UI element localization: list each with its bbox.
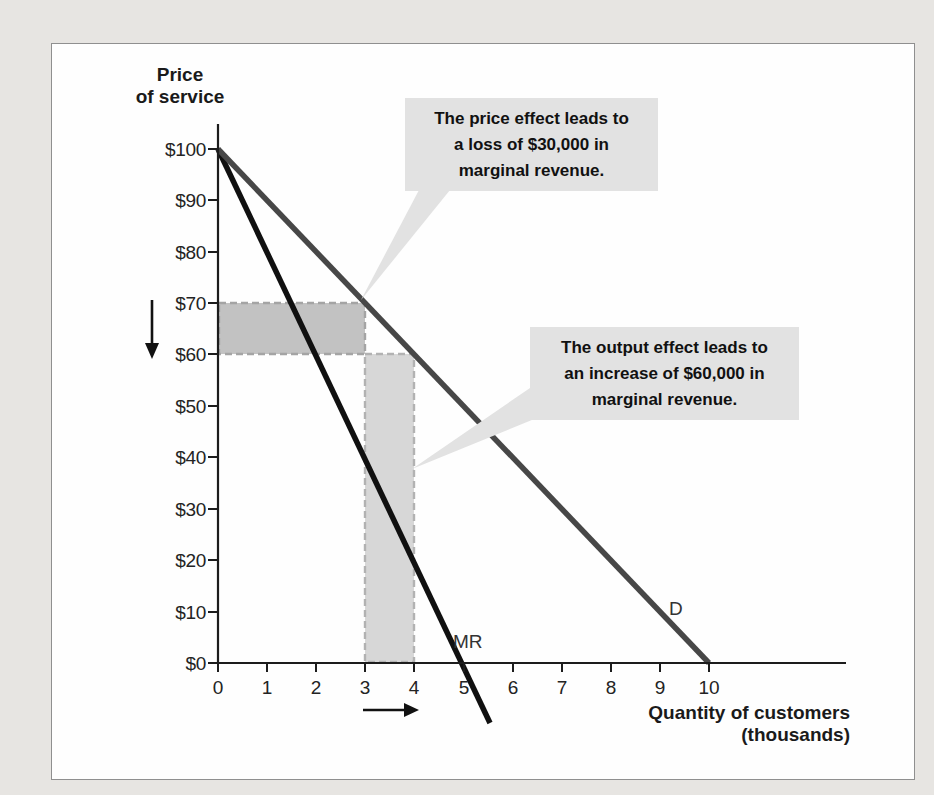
x-axis-ticks [218,664,709,672]
y-axis-title: Price of service [120,64,240,108]
y-tick-label: $50 [136,396,206,418]
output-effect-callout-line2: an increase of $60,000 in [530,361,799,387]
output-effect-callout-line1: The output effect leads to [530,335,799,361]
x-axis-title-line2: (thousands) [610,724,850,746]
x-tick-label: 3 [345,677,385,699]
y-axis-title-line1: Price [120,64,240,86]
y-tick-label: $70 [136,293,206,315]
y-tick-label: $10 [136,602,206,624]
x-tick-label: 9 [640,677,680,699]
y-tick-label: $60 [136,344,206,366]
y-tick-label: $0 [136,653,206,675]
price-effect-callout: The price effect leads to a loss of $30,… [405,98,658,191]
x-tick-label: 10 [689,677,729,699]
y-tick-label: $20 [136,550,206,572]
y-tick-label: $80 [136,242,206,264]
x-tick-label: 2 [296,677,336,699]
x-tick-label: 0 [198,677,238,699]
mr-curve-label: MR [453,631,483,653]
page: { "figure": { "background_color": "#e7e5… [0,0,934,795]
y-tick-label: $40 [136,447,206,469]
y-axis-title-line2: of service [120,86,240,108]
marginal-revenue-curve [218,149,490,723]
price-effect-callout-line3: marginal revenue. [405,158,658,184]
y-tick-label: $100 [136,139,206,161]
x-tick-label: 7 [542,677,582,699]
y-tick-label: $30 [136,499,206,521]
y-tick-label: $90 [136,190,206,212]
price-effect-callout-line1: The price effect leads to [405,106,658,132]
price-effect-callout-line2: a loss of $30,000 in [405,132,658,158]
demand-curve-label: D [669,598,683,620]
output-callout-tail [412,388,549,469]
x-tick-label: 6 [493,677,533,699]
output-effect-callout: The output effect leads to an increase o… [530,327,799,420]
x-tick-label: 8 [591,677,631,699]
x-tick-label: 5 [444,677,484,699]
x-axis-title-line1: Quantity of customers [610,702,850,724]
price-callout-tail [361,190,450,300]
x-tick-label: 1 [247,677,287,699]
x-tick-label: 4 [394,677,434,699]
output-increase-arrowhead [404,703,419,717]
x-axis-title: Quantity of customers (thousands) [610,702,850,746]
output-effect-callout-line3: marginal revenue. [530,387,799,413]
y-axis-ticks [208,149,217,663]
